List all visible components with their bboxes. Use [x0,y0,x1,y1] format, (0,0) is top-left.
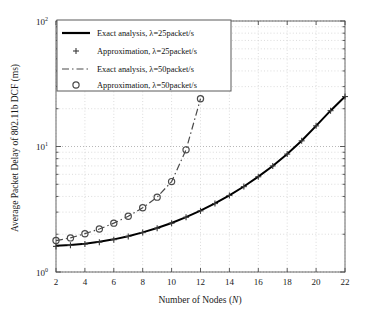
x-tick-label: 10 [167,277,177,287]
x-tick-label: 14 [225,277,235,287]
x-tick-label: 16 [254,277,264,287]
series-4 [53,96,204,244]
x-tick-label: 22 [341,277,350,287]
y-tick-label: 100 [36,267,48,278]
x-tick-label: 6 [112,277,117,287]
legend-item-label: Approximation, λ=50packet/s [97,81,197,90]
figure-container: 246810121416182022 100101102 Number of N… [0,0,369,313]
legend: Exact analysis, λ=25packet/sApproximatio… [57,20,231,91]
legend-item-label: Approximation, λ=25packet/s [97,47,197,56]
y-tick-label: 101 [36,141,48,152]
y-tick-label: 102 [36,16,48,27]
x-tick-label: 12 [196,277,205,287]
svg-text:Average Packet Delay of 802.11: Average Packet Delay of 802.11b DCF (ms) [10,64,21,232]
x-tick-label: 4 [83,277,88,287]
svg-text:Number of Nodes (N): Number of Nodes (N) [158,295,241,306]
x-tick-labels: 246810121416182022 [54,277,350,287]
x-tick-label: 8 [140,277,145,287]
legend-item-label: Exact analysis, λ=50packet/s [97,65,194,74]
legend-item-label: Exact analysis, λ=25packet/s [97,29,194,38]
y-axis-label: Average Packet Delay of 802.11b DCF (ms) [10,64,21,232]
x-tick-label: 2 [54,277,59,287]
x-tick-label: 18 [283,277,293,287]
series-markers [53,96,204,244]
y-tick-labels: 100101102 [36,16,48,278]
x-tick-label: 20 [312,277,322,287]
x-axis-label: Number of Nodes (N) [158,295,241,306]
packet-delay-chart: 246810121416182022 100101102 Number of N… [0,0,369,313]
